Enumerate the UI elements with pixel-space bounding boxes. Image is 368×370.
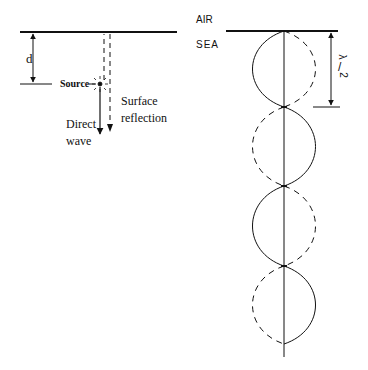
direct-wave-label-line1: Direct bbox=[66, 118, 96, 130]
half-wavelength-label: λ / 2 bbox=[336, 52, 356, 82]
dipole-surface-reflection-diagram bbox=[0, 0, 368, 370]
depth-label: d bbox=[26, 52, 33, 65]
fraction-slash: / bbox=[338, 61, 341, 73]
right-panel bbox=[226, 31, 340, 357]
lambda-symbol: λ bbox=[337, 55, 347, 60]
direct-wave-label-line2: wave bbox=[66, 135, 91, 147]
air-label: AIR bbox=[196, 15, 213, 25]
reflection-arrowhead bbox=[107, 124, 113, 132]
sea-label: SEA bbox=[196, 40, 219, 50]
source-label: Source bbox=[60, 79, 89, 89]
denominator: 2 bbox=[338, 72, 348, 78]
surface-reflection-label-line1: Surface bbox=[121, 95, 158, 107]
surface-reflection-label-line2: reflection bbox=[121, 112, 167, 124]
